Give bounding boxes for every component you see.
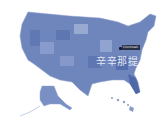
hawaii [111,97,134,112]
us-map [0,0,168,125]
city-marker-label[interactable]: Cincinnati [122,45,140,50]
alaska [40,86,72,110]
watermark-text: 辛辛那提 [96,53,138,68]
